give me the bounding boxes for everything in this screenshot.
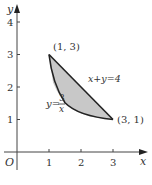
x-axis-label: x [140,155,147,168]
y-tick-label-2: 2 [7,82,13,93]
hyperbola-label-denominator: x [59,104,64,114]
point-label-1-3: (1, 3) [53,41,80,52]
line-equation-label: x+y=4 [88,73,121,84]
y-axis-arrow-icon [14,4,20,13]
hyperbola-label-numerator: 3 [59,93,65,103]
x-tick-label-1: 1 [46,157,52,168]
x-tick-label-3: 3 [110,157,116,168]
y-axis-label: y [6,3,14,16]
y-tick-label-1: 1 [7,114,13,125]
y-tick-label-4: 4 [7,17,13,28]
x-tick-label-2: 2 [78,157,84,168]
y-tick-label-3: 3 [7,49,13,60]
origin-label: O [5,156,14,169]
point-label-3-1: (3, 1) [117,114,144,125]
hyperbola-label-lhs: y= [45,98,60,109]
coordinate-plane: x y O 1 2 3 1 2 3 4 (1, 3) (3, 1) x+y=4 … [0,0,152,185]
